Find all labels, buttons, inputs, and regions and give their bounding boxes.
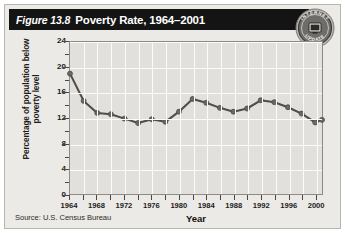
series-line xyxy=(70,74,322,123)
y-gridline xyxy=(70,145,322,146)
x-gridline xyxy=(97,42,98,194)
x-gridline xyxy=(166,42,167,194)
figure-title-bar: Figure 13.8 Poverty Rate, 1964–2001 xyxy=(9,9,309,30)
x-gridline xyxy=(125,42,126,194)
x-tick-mark xyxy=(302,195,303,200)
x-gridline xyxy=(152,42,153,194)
data-point xyxy=(68,71,73,76)
x-tick-mark xyxy=(261,195,262,200)
y-tick-mark-minor xyxy=(65,131,69,132)
figure-number: Figure 13.8 xyxy=(16,14,70,26)
x-tick-mark xyxy=(193,195,194,200)
y-gridline xyxy=(70,93,322,94)
x-gridline xyxy=(180,42,181,194)
y-tick-mark xyxy=(63,144,69,145)
source-note: Source: U.S. Census Bureau xyxy=(15,213,111,222)
x-tick-mark xyxy=(138,195,139,200)
x-gridline xyxy=(221,42,222,194)
x-tick-mark xyxy=(179,195,180,200)
plot-area xyxy=(69,41,323,195)
x-tick-mark xyxy=(151,195,152,200)
x-tick-mark xyxy=(69,195,70,200)
x-tick-mark xyxy=(289,195,290,200)
x-gridline xyxy=(235,42,236,194)
y-tick-mark-minor xyxy=(65,157,69,158)
page-title: Poverty Rate, 1964–2001 xyxy=(75,14,205,26)
y-tick-mark-minor xyxy=(65,54,69,55)
x-tick-mark xyxy=(83,195,84,200)
y-tick-mark xyxy=(63,41,69,42)
y-tick-mark xyxy=(63,118,69,119)
y-tick-mark xyxy=(63,92,69,93)
x-tick-mark xyxy=(316,195,317,200)
y-gridline xyxy=(70,119,322,120)
y-tick-mark-minor xyxy=(65,105,69,106)
x-gridline xyxy=(303,42,304,194)
y-gridline xyxy=(70,42,322,43)
y-gridline xyxy=(70,170,322,171)
x-gridline xyxy=(248,42,249,194)
y-gridline xyxy=(70,68,322,69)
x-tick-mark xyxy=(96,195,97,200)
x-gridline xyxy=(84,42,85,194)
x-tick-mark xyxy=(234,195,235,200)
x-gridline xyxy=(111,42,112,194)
y-tick-mark xyxy=(63,67,69,68)
x-tick-mark xyxy=(124,195,125,200)
x-gridline xyxy=(262,42,263,194)
x-tick-mark xyxy=(275,195,276,200)
y-tick-mark-minor xyxy=(65,80,69,81)
x-gridline xyxy=(276,42,277,194)
chart-container: Percentage of population below poverty l… xyxy=(5,33,342,205)
y-tick-mark xyxy=(63,169,69,170)
x-tick-label: 2000 xyxy=(299,201,333,210)
x-tick-mark xyxy=(247,195,248,200)
x-gridline xyxy=(317,42,318,194)
x-gridline xyxy=(139,42,140,194)
x-tick-mark xyxy=(110,195,111,200)
x-tick-mark xyxy=(206,195,207,200)
y-tick-mark-minor xyxy=(65,182,69,183)
y-axis-title: Percentage of population below poverty l… xyxy=(22,29,42,169)
x-tick-mark xyxy=(220,195,221,200)
figure-card: Figure 13.8 Poverty Rate, 1964–2001 INTE… xyxy=(4,4,341,229)
x-tick-mark xyxy=(165,195,166,200)
x-gridline xyxy=(194,42,195,194)
x-gridline xyxy=(290,42,291,194)
x-gridline xyxy=(207,42,208,194)
